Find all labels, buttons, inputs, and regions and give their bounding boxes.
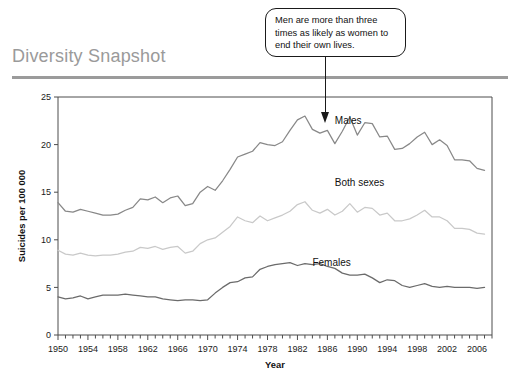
svg-text:0: 0 [46,330,51,340]
svg-text:20: 20 [41,140,51,150]
svg-text:1966: 1966 [168,344,188,354]
series-line-both-sexes [58,202,485,256]
series-label-both-sexes: Both sexes [335,177,384,188]
chart-series-group [58,116,485,301]
svg-text:1974: 1974 [228,344,248,354]
svg-text:1962: 1962 [138,344,158,354]
series-line-males [58,116,485,215]
annotation-leader-line [325,57,326,115]
chart-series-labels: MalesBoth sexesFemales [312,115,384,269]
svg-text:1998: 1998 [407,344,427,354]
svg-text:15: 15 [41,187,51,197]
svg-text:1958: 1958 [108,344,128,354]
svg-text:10: 10 [41,235,51,245]
svg-text:5: 5 [46,283,51,293]
series-line-females [58,263,485,301]
chart-axes [58,97,492,335]
annotation-callout: Men are more than three times as likely … [265,8,406,57]
chart-axis-titles: YearSuicides per 100 000 [16,170,285,370]
svg-text:1978: 1978 [258,344,278,354]
svg-text:25: 25 [41,92,51,102]
svg-text:1970: 1970 [198,344,218,354]
svg-text:1950: 1950 [48,344,68,354]
series-label-females: Females [312,257,350,268]
line-chart: 0510152025 19501954195819621966197019741… [0,0,520,382]
series-label-males: Males [335,115,362,126]
svg-text:2002: 2002 [437,344,457,354]
y-axis-title: Suicides per 100 000 [16,170,27,262]
svg-text:1990: 1990 [347,344,367,354]
svg-text:2006: 2006 [467,344,487,354]
annotation-callout-text: Men are more than three times as likely … [275,14,397,52]
annotation-arrow-icon [321,112,329,123]
svg-text:1994: 1994 [377,344,397,354]
svg-text:1954: 1954 [78,344,98,354]
svg-text:1986: 1986 [317,344,337,354]
x-axis-title: Year [265,359,285,370]
chart-canvas: 0510152025 19501954195819621966197019741… [0,0,520,382]
x-axis-ticks: 1950195419581962196619701974197819821986… [48,335,492,354]
svg-text:1982: 1982 [287,344,307,354]
y-axis-ticks: 0510152025 [41,92,58,340]
